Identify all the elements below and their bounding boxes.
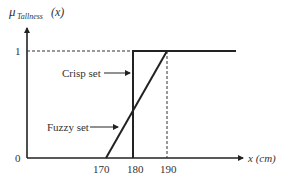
x-axis-label: x (cm) [247,152,276,165]
fuzzy-set-label: Fuzzy set [47,121,89,133]
y-axis-subscript: Tallness [17,12,43,21]
crisp-set-label: Crisp set [62,67,101,79]
y-axis-arg: (x) [51,5,64,19]
x-tick-180: 180 [127,163,144,175]
y-axis-label: μ Tallness (x) [8,4,64,21]
y-axis-mu: μ [8,4,16,19]
crisp-set-line [133,51,236,158]
fuzzy-set-line [106,51,167,158]
fuzzy-vs-crisp-chart: μ Tallness (x) 1 0 170 180 190 x (cm) Cr… [0,0,288,179]
x-tick-170: 170 [93,163,110,175]
x-tick-190: 190 [160,163,177,175]
y-tick-0: 0 [15,152,21,164]
y-tick-1: 1 [15,45,21,57]
